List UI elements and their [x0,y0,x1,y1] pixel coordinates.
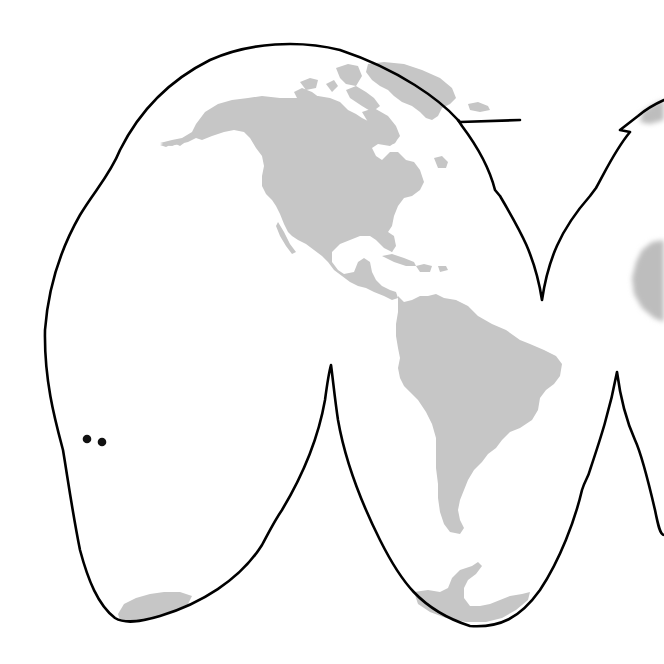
map-canvas [0,0,664,664]
landmass-africa-partial [632,240,664,322]
world-map: Goode homolosine (interrupted) [0,0,664,664]
landmass-iceland [468,102,490,112]
landmass-south-america [396,294,562,534]
outline-atlantic-notch [458,100,664,300]
landmass-antarctic-peninsula [414,562,530,622]
landmasses [118,62,664,622]
marker-dot-2 [98,438,107,447]
landmass-caribbean-islands [382,254,448,272]
map-markers [83,435,107,447]
marker-dot-1 [83,435,92,444]
